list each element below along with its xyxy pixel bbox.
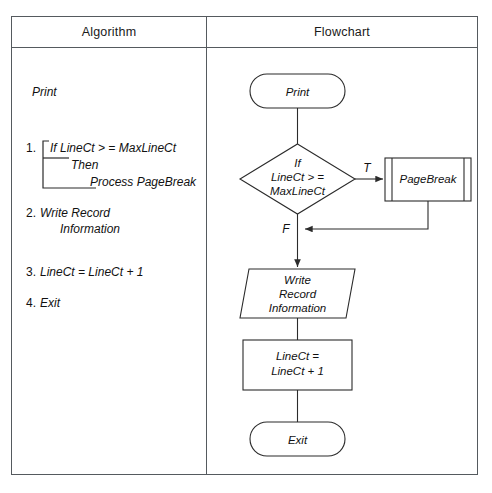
algorithm-intro: Print (32, 85, 57, 100)
node-decision-label-line-3: MaxLineCt (270, 185, 326, 197)
step-1-number: 1. (26, 141, 36, 156)
node-start-label: Print (286, 86, 310, 98)
node-write-label-line-2: Record (279, 288, 317, 300)
flowchart-canvas: Print If LineCt > = MaxLineCt T (207, 48, 478, 475)
node-pagebreak-label: PageBreak (400, 173, 458, 185)
node-write-input-output: Write Record Information (240, 269, 355, 318)
node-write-label-line-3: Information (269, 302, 327, 314)
node-decision-label-line-2: LineCt > = (271, 171, 324, 183)
step-4-number: 4. (26, 296, 36, 311)
column-header-flowchart: Flowchart (207, 17, 477, 47)
node-start-terminator: Print (250, 74, 345, 108)
connector-pagebreak-return (305, 201, 428, 229)
node-increment-label-line-2: LineCt + 1 (271, 365, 324, 377)
diagram-page: Algorithm Flowchart Print 1. If LineCt >… (0, 0, 492, 493)
step-2-line-2: Information (60, 222, 120, 237)
edge-label-true: T (363, 161, 372, 175)
step-4-line-1: Exit (40, 296, 60, 311)
flowchart-column: Print If LineCt > = MaxLineCt T (207, 48, 478, 475)
column-header-algorithm: Algorithm (12, 17, 206, 47)
comparison-table: Algorithm Flowchart Print 1. If LineCt >… (11, 16, 478, 475)
step-1-line-1: If LineCt > = MaxLineCt (50, 141, 176, 156)
step-3-number: 3. (26, 265, 36, 280)
algorithm-column: Print 1. If LineCt > = MaxLineCt Then Pr… (12, 48, 206, 475)
step-1-line-3: Process PageBreak (90, 175, 196, 190)
node-pagebreak-predefined-process: PageBreak (385, 158, 471, 201)
node-decision-diamond: If LineCt > = MaxLineCt (240, 144, 355, 214)
node-write-label-line-1: Write (284, 274, 311, 286)
node-increment-process: LineCt = LineCt + 1 (243, 340, 352, 390)
node-increment-label-line-1: LineCt = (276, 350, 319, 362)
step-2-line-1: Write Record (40, 206, 110, 221)
step-2-number: 2. (26, 206, 36, 221)
step-3-line-1: LineCt = LineCt + 1 (40, 265, 143, 280)
step-1-line-2: Then (71, 158, 98, 173)
node-end-label: Exit (288, 434, 308, 446)
table-header-row: Algorithm Flowchart (12, 17, 477, 48)
edge-label-false: F (282, 222, 290, 236)
node-end-terminator: Exit (250, 422, 345, 456)
